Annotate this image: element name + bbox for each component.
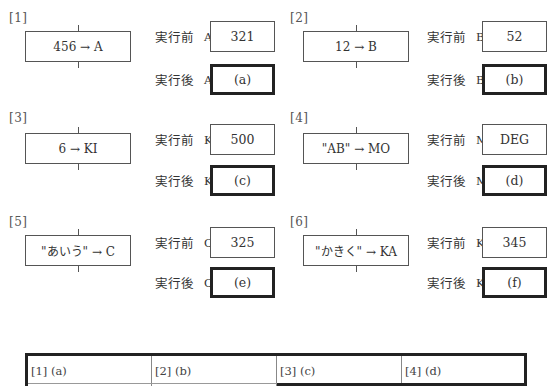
after-label-text: 実行後 [155,273,194,292]
problem-6-number: [6] [290,215,309,229]
flow-line-bottom [356,266,357,272]
problem-4-after-answer-box[interactable]: (d) [482,165,547,196]
answer-cell-a[interactable]: [1] (a) [28,356,152,386]
after-label-text: 実行後 [427,273,466,292]
problem-3-process-box: 6 → KI [25,133,131,164]
answer-cell-d[interactable]: [4] (d) [402,356,524,386]
problem-3-after-answer-box[interactable]: (c) [210,165,275,196]
problem-4-number: [4] [290,111,309,125]
problem-5-after-answer-box[interactable]: (e) [210,267,275,298]
flow-line-bottom [78,62,79,68]
problem-6-before-value: 345 [482,227,547,258]
table-row-divider [28,383,277,384]
before-label-text: 実行前 [155,233,194,252]
problem-5-after-label: 実行後 C [155,267,213,298]
problem-6-after-answer-box[interactable]: (f) [482,267,547,298]
problem-6-process-box: "かきく" → KA [303,235,409,266]
problem-1-after-label: 実行後 A [155,64,212,95]
problem-5-process-box: "あいう" → C [25,235,131,266]
before-label-text: 実行前 [155,27,194,46]
problem-1-process-box: 456 → A [25,31,131,62]
after-label-text: 実行後 [155,171,194,190]
before-label-text: 実行前 [427,27,466,46]
problem-4-process-box: "AB" → MO [303,133,409,164]
flow-line-bottom [356,164,357,170]
problem-5-before-value: 325 [210,227,275,258]
after-label-text: 実行後 [155,70,194,89]
problem-1-after-answer-box[interactable]: (a) [210,64,275,95]
problem-1-before-label: 実行前 A [155,21,212,52]
answer-cell-b[interactable]: [2] (b) [152,356,277,386]
after-label-text: 実行後 [427,70,466,89]
problem-2-before-value: 52 [482,21,547,52]
problem-5-before-label: 実行前 C [155,227,213,258]
problem-1-before-value: 321 [210,21,275,52]
problem-2-number: [2] [290,11,309,25]
flow-line-bottom [78,164,79,170]
problem-3-before-value: 500 [210,124,275,155]
problem-2-after-answer-box[interactable]: (b) [482,64,547,95]
problem-4-before-value: DEG [482,124,547,155]
answer-cell-c[interactable]: [3] (c) [277,356,402,386]
problem-3-after-label: 実行後 KI [155,165,217,196]
problem-2-process-box: 12 → B [303,31,409,62]
before-label-text: 実行前 [427,130,466,149]
problem-5-number: [5] [9,215,28,229]
problem-2-after-label: 実行後 B [427,64,484,95]
problem-2-before-label: 実行前 B [427,21,484,52]
problem-3-before-label: 実行前 KI [155,124,217,155]
problem-3-number: [3] [9,111,28,125]
after-label-text: 実行後 [427,171,466,190]
problem-1-number: [1] [9,11,28,25]
before-label-text: 実行前 [427,233,466,252]
before-label-text: 実行前 [155,130,194,149]
flow-line-bottom [356,62,357,68]
answer-table: [1] (a) [2] (b) [3] (c) [4] (d) [25,353,527,386]
flow-line-bottom [78,266,79,272]
